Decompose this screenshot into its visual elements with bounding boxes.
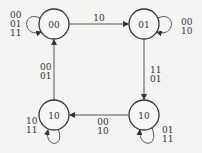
state-diagram: 00 01 10 10 00 01 11 10 00 10 11 01 01 1… (0, 0, 202, 153)
self-loop-10a (48, 129, 60, 143)
label-self-10b: 01 11 (162, 125, 173, 144)
svg-text:10: 10 (93, 13, 105, 23)
svg-text:10: 10 (181, 26, 193, 36)
svg-text:10: 10 (97, 126, 109, 136)
label-10a-to-00: 00 01 (40, 62, 52, 81)
svg-text:01: 01 (138, 20, 149, 30)
svg-text:01: 01 (40, 71, 51, 81)
state-10-right: 10 (129, 100, 159, 130)
label-00-to-01: 10 (93, 13, 105, 23)
state-00: 00 (39, 9, 69, 39)
state-10-left: 10 (39, 100, 69, 130)
label-self-00: 00 01 11 (10, 10, 22, 38)
state-01: 01 (129, 9, 159, 39)
svg-text:11: 11 (10, 28, 21, 38)
svg-text:01: 01 (150, 74, 161, 84)
svg-text:11: 11 (162, 134, 173, 144)
svg-text:00: 00 (48, 20, 60, 30)
svg-text:11: 11 (26, 125, 37, 135)
label-10b-to-10a: 00 10 (97, 117, 109, 136)
svg-text:10: 10 (48, 111, 60, 121)
label-self-01: 00 10 (181, 17, 193, 36)
label-01-to-10b: 11 01 (150, 65, 161, 84)
svg-text:10: 10 (138, 111, 150, 121)
label-self-10a: 10 11 (26, 116, 38, 135)
